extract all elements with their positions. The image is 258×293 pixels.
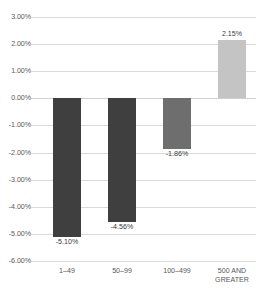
- bar-value-label: 2.15%: [202, 30, 258, 38]
- bar-value-label: -5.10%: [37, 238, 97, 246]
- gridline: [31, 17, 256, 18]
- x-axis-category-label: 500 AND GREATER: [195, 267, 258, 284]
- y-axis-tick-label: 1.00%: [0, 67, 31, 75]
- plot-area: -5.10%-4.56%-1.86%2.15%: [31, 17, 256, 261]
- y-axis-tick-label: -4.00%: [0, 203, 31, 211]
- bar: [163, 98, 191, 148]
- bar: [108, 98, 136, 222]
- y-axis-tick-label: 0.00%: [0, 94, 31, 102]
- y-axis-tick-label: -6.00%: [0, 257, 31, 265]
- y-axis-tick-label: 3.00%: [0, 13, 31, 21]
- y-axis-tick-label: -5.00%: [0, 230, 31, 238]
- y-axis-tick-label: -2.00%: [0, 149, 31, 157]
- y-axis-tick-label: -1.00%: [0, 121, 31, 129]
- bar: [218, 40, 246, 98]
- bar-chart: 3.00%2.00%1.00%0.00%-1.00%-2.00%-3.00%-4…: [0, 0, 258, 293]
- gridline: [31, 261, 256, 262]
- bar: [53, 98, 81, 236]
- y-axis-tick-label: 2.00%: [0, 40, 31, 48]
- bar-value-label: -1.86%: [147, 150, 207, 158]
- bar-value-label: -4.56%: [92, 223, 152, 231]
- y-axis-tick-label: -3.00%: [0, 176, 31, 184]
